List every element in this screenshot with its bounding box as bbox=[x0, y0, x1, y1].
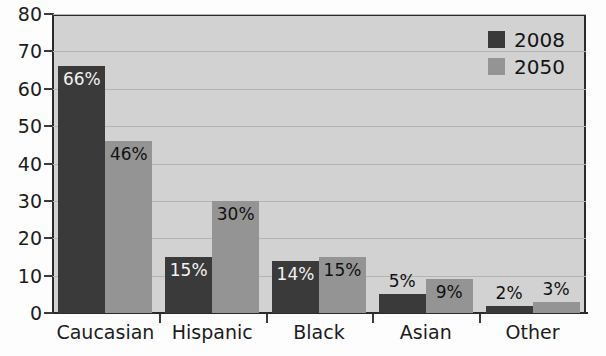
bar-value-label: 30% bbox=[212, 206, 259, 223]
x-axis-label-hispanic: Hispanic bbox=[159, 323, 266, 342]
y-axis-tick bbox=[44, 50, 53, 52]
bar-value-label: 15% bbox=[165, 262, 212, 279]
x-axis-tick bbox=[266, 314, 268, 323]
y-axis-tick-label: 80 bbox=[0, 5, 42, 24]
y-axis-tick bbox=[44, 163, 53, 165]
legend-label-2050: 2050 bbox=[514, 57, 565, 77]
legend-swatch-2008 bbox=[488, 31, 505, 48]
bar-value-label: 3% bbox=[533, 281, 580, 298]
y-axis-tick-label: 30 bbox=[0, 192, 42, 211]
y-axis-tick bbox=[44, 312, 53, 314]
legend-item-2050: 2050 bbox=[488, 53, 565, 80]
bar-caucasian-2008: 66% bbox=[58, 66, 105, 313]
y-axis-tick bbox=[44, 237, 53, 239]
x-axis-label-asian: Asian bbox=[372, 323, 479, 342]
x-axis-label-other: Other bbox=[479, 323, 586, 342]
bar-other-2050: 3% bbox=[533, 302, 580, 313]
legend-label-2008: 2008 bbox=[514, 30, 565, 50]
y-axis-tick-label: 20 bbox=[0, 229, 42, 248]
gridline bbox=[52, 14, 586, 15]
bar-chart: 01020304050607080 66%46%15%30%14%15%5%9%… bbox=[0, 0, 606, 356]
bar-value-label: 2% bbox=[486, 285, 533, 302]
legend-swatch-2050 bbox=[488, 58, 505, 75]
legend-item-2008: 2008 bbox=[488, 26, 565, 53]
y-axis-tick bbox=[44, 13, 53, 15]
x-axis-label-black: Black bbox=[266, 323, 373, 342]
x-axis-tick bbox=[479, 314, 481, 323]
bar-value-label: 5% bbox=[379, 273, 426, 290]
bar-asian-2050: 9% bbox=[426, 279, 473, 313]
y-axis-tick-label: 10 bbox=[0, 267, 42, 286]
y-axis-tick-label: 60 bbox=[0, 80, 42, 99]
y-axis-tick bbox=[44, 275, 53, 277]
legend: 2008 2050 bbox=[488, 26, 565, 80]
bar-value-label: 9% bbox=[426, 284, 473, 301]
y-axis-tick-label: 50 bbox=[0, 117, 42, 136]
bar-value-label: 14% bbox=[272, 266, 319, 283]
bar-value-label: 66% bbox=[58, 71, 105, 88]
y-axis-tick bbox=[44, 200, 53, 202]
bar-black-2050: 15% bbox=[319, 257, 366, 313]
y-axis-tick-label: 40 bbox=[0, 155, 42, 174]
bar-asian-2008: 5% bbox=[379, 294, 426, 313]
bar-value-label: 15% bbox=[319, 262, 366, 279]
gridline bbox=[52, 89, 586, 90]
gridline bbox=[52, 126, 586, 127]
bar-black-2008: 14% bbox=[272, 261, 319, 313]
y-axis-tick bbox=[44, 125, 53, 127]
bar-caucasian-2050: 46% bbox=[105, 141, 152, 313]
bar-hispanic-2008: 15% bbox=[165, 257, 212, 313]
x-axis-label-caucasian: Caucasian bbox=[52, 323, 159, 342]
y-axis-tick-label: 0 bbox=[0, 304, 42, 323]
y-axis-tick-label: 70 bbox=[0, 42, 42, 61]
bar-value-label: 46% bbox=[105, 146, 152, 163]
x-axis-tick bbox=[159, 314, 161, 323]
x-axis-tick bbox=[372, 314, 374, 323]
bar-hispanic-2050: 30% bbox=[212, 201, 259, 313]
y-axis-tick bbox=[44, 88, 53, 90]
bar-other-2008: 2% bbox=[486, 306, 533, 313]
